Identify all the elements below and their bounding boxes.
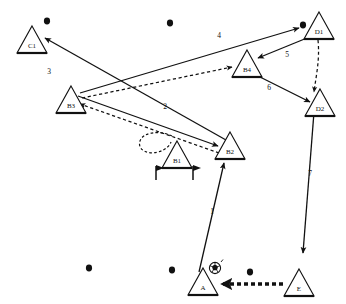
node-E[interactable]: E xyxy=(284,269,314,296)
edge-label-1: 1 xyxy=(210,207,214,216)
dot-marker xyxy=(167,20,173,27)
node-B3[interactable]: B3 xyxy=(56,86,86,113)
node-B1[interactable]: B1 xyxy=(162,141,192,168)
node-B4-label: B4 xyxy=(243,66,252,74)
node-B1-label: B1 xyxy=(173,157,182,165)
dot-marker xyxy=(86,265,92,272)
node-A-label: A xyxy=(200,284,205,292)
edge-B2-B3 xyxy=(80,104,219,153)
edge-label-6: 6 xyxy=(267,83,271,92)
flag-icon xyxy=(193,165,201,180)
node-B2-label: B2 xyxy=(226,148,235,156)
dashed-loop-marker xyxy=(139,133,172,153)
node-B3-label: B3 xyxy=(67,102,76,110)
node-D2[interactable]: D2 xyxy=(305,89,335,116)
node-C1[interactable]: C1 xyxy=(17,26,47,53)
diagram-canvas: C1 B3 B1 B2 B4 xyxy=(0,0,346,304)
edge-D2-E xyxy=(303,112,314,253)
diagram-svg: C1 B3 B1 B2 B4 xyxy=(0,0,346,304)
edge-label-5: 5 xyxy=(285,50,289,59)
edge-A-B2 xyxy=(199,163,224,272)
edge-B3-B2 xyxy=(78,96,218,146)
edge-D1-D2 xyxy=(314,40,319,92)
dot-marker xyxy=(247,269,253,276)
dot-marker xyxy=(44,18,50,25)
edge-D1-B4 xyxy=(258,38,307,58)
edge-B4-D2 xyxy=(254,74,310,102)
edge-label-4: 4 xyxy=(217,31,221,40)
dot-marker xyxy=(169,267,175,274)
node-D1-label: D1 xyxy=(315,28,324,36)
edge-label-2: 2 xyxy=(163,102,167,111)
edge-label-group: 1 2 3 4 5 6 7 xyxy=(47,31,312,216)
edge-label-7: 7 xyxy=(308,169,312,178)
dot-marker xyxy=(300,22,306,29)
node-E-label: E xyxy=(297,285,301,293)
edge-label-3: 3 xyxy=(47,67,51,76)
node-B4[interactable]: B4 xyxy=(232,50,262,77)
node-D1[interactable]: D1 xyxy=(304,12,334,39)
node-C1-label: C1 xyxy=(28,42,37,50)
ball-icon xyxy=(209,260,223,274)
node-D2-label: D2 xyxy=(316,105,325,113)
